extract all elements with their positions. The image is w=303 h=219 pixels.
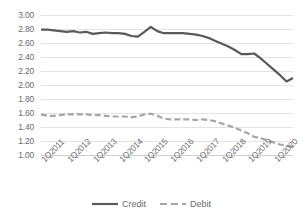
y-axis: 3.002.802.602.402.202.001.801.601.401.20…: [0, 15, 38, 155]
y-axis-tick-label: 1.40: [18, 122, 34, 132]
legend-label: Debit: [190, 199, 211, 209]
y-axis-tick-label: 2.60: [18, 38, 34, 48]
y-axis-tick-label: 2.00: [18, 80, 34, 90]
y-axis-tick-label: 1.20: [18, 136, 34, 146]
y-axis-tick-label: 3.00: [18, 10, 34, 20]
legend-swatch-credit-icon: [92, 200, 118, 208]
series-line-credit: [41, 27, 293, 82]
y-axis-tick-label: 1.00: [18, 150, 34, 160]
y-axis-tick-label: 1.80: [18, 94, 34, 104]
y-axis-tick-label: 2.40: [18, 52, 34, 62]
line-chart: 3.002.802.602.402.202.001.801.601.401.20…: [0, 0, 303, 219]
x-axis: 1Q20111Q20121Q20131Q20141Q20151Q20161Q20…: [41, 157, 293, 201]
chart-legend: CreditDebit: [0, 199, 303, 209]
y-axis-tick-label: 2.20: [18, 66, 34, 76]
legend-label: Credit: [122, 199, 146, 209]
legend-swatch-debit-icon: [160, 200, 186, 208]
y-axis-tick-label: 2.80: [18, 24, 34, 34]
y-axis-tick-label: 1.60: [18, 108, 34, 118]
legend-item-debit[interactable]: Debit: [160, 199, 211, 209]
legend-item-credit[interactable]: Credit: [92, 199, 146, 209]
series-layer: [41, 15, 293, 155]
plot-area: [41, 15, 293, 155]
